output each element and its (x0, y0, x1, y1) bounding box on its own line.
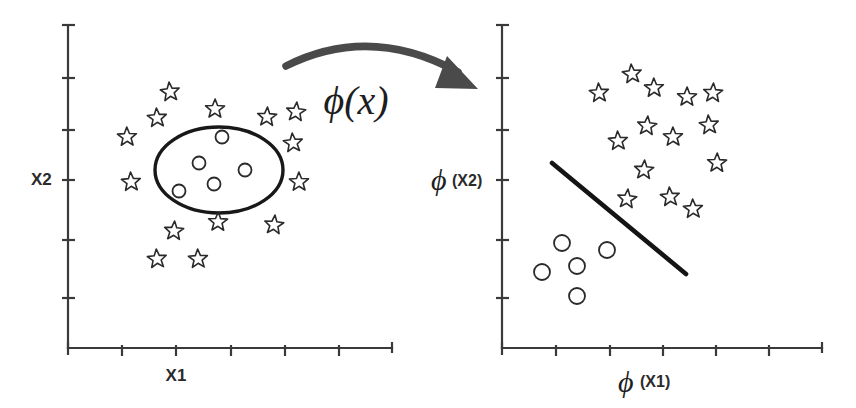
right-plot-axes (496, 25, 822, 356)
star-marker (708, 153, 727, 171)
star-marker (608, 131, 627, 149)
star-marker (644, 78, 663, 96)
left-plot-star-markers (117, 82, 308, 267)
star-marker (618, 189, 637, 208)
star-marker (635, 160, 654, 178)
left-plot-axes (62, 25, 392, 356)
star-marker (209, 212, 228, 230)
star-marker (663, 127, 682, 145)
figure-canvas: X2 X1 ϕ(x) (0, 0, 856, 408)
star-marker (160, 82, 179, 101)
circle-marker (534, 264, 550, 280)
right-x-axis-label: ϕ (X1) (618, 365, 670, 398)
linear-decision-boundary (552, 163, 686, 274)
right-y-axis-subscript: (X2) (452, 172, 482, 189)
circle-marker (569, 258, 585, 274)
circle-marker (173, 185, 186, 198)
circular-decision-boundary (155, 127, 283, 213)
star-marker (589, 83, 608, 101)
circle-marker (599, 242, 615, 258)
left-y-axis-label: X2 (31, 170, 52, 189)
feature-space-plot: ϕ (X2) ϕ (X1) (431, 25, 822, 398)
star-marker (638, 116, 657, 135)
star-marker (622, 64, 641, 83)
circle-marker (208, 178, 221, 191)
kernel-feature-map-figure: X2 X1 ϕ(x) (0, 0, 856, 408)
phi-of-x-label: ϕ(x) (323, 78, 388, 123)
star-marker (660, 187, 679, 205)
star-marker (704, 83, 723, 101)
star-marker (287, 102, 306, 121)
star-marker (147, 108, 166, 126)
star-marker (165, 221, 184, 239)
star-marker (206, 99, 225, 117)
right-x-axis-subscript: (X1) (640, 373, 670, 390)
left-plot-circle-markers (173, 131, 252, 198)
circle-marker (554, 235, 570, 251)
star-marker (147, 249, 166, 267)
star-marker (283, 133, 302, 152)
right-x-axis-phi-glyph: ϕ (618, 365, 634, 398)
arrow-body (286, 46, 458, 72)
right-y-axis-phi-glyph: ϕ (431, 163, 447, 196)
star-marker (117, 127, 136, 145)
star-marker (289, 172, 308, 190)
right-plot-star-markers (589, 64, 726, 217)
star-marker (265, 215, 284, 234)
star-marker (683, 199, 702, 217)
circle-marker (216, 131, 229, 144)
star-marker (699, 115, 718, 134)
circle-marker (569, 288, 585, 304)
star-marker (188, 249, 207, 267)
right-y-axis-label: ϕ (X2) (431, 163, 482, 196)
left-x-axis-label: X1 (166, 366, 187, 385)
star-marker (258, 107, 277, 125)
right-plot-circle-markers (534, 235, 615, 304)
circle-marker (239, 164, 252, 177)
star-marker (121, 172, 140, 190)
star-marker (678, 87, 697, 105)
circle-marker (193, 157, 206, 170)
